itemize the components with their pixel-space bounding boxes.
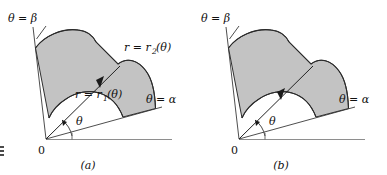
label-inner-curve-arg-a: (θ) <box>107 88 122 101</box>
page-margin-artifact <box>0 146 4 158</box>
label-origin-b: 0 <box>231 144 238 157</box>
label-inner-curve-text-a: r = r <box>75 88 102 101</box>
caption-a: (a) <box>80 159 95 172</box>
label-inner-curve-a: r = r 1 (θ) <box>75 88 122 103</box>
label-outer-curve-a: r = r 2 (θ) <box>124 41 171 56</box>
beta-leader-a <box>37 26 47 39</box>
label-theta-b: θ <box>269 115 276 128</box>
label-theta-equals-beta-a: θ = β <box>8 12 37 25</box>
shaded-region-b <box>229 30 349 118</box>
label-theta-equals-beta-b: θ = β <box>201 12 230 25</box>
label-outer-curve-arg-a: (θ) <box>156 41 171 54</box>
beta-leader-b <box>230 26 240 39</box>
figure-root: θ = β θ = α r = r 2 (θ) r = r 1 (θ) θ 0 … <box>0 0 387 175</box>
panel-a: θ = β θ = α r = r 2 (θ) r = r 1 (θ) θ 0 … <box>0 0 194 175</box>
panel-b: θ = β θ = α θ 0 (b) <box>193 0 387 175</box>
label-origin-a: 0 <box>38 144 45 157</box>
label-theta-equals-alpha-b: θ = α <box>339 93 370 106</box>
label-theta-equals-alpha-a: θ = α <box>146 93 177 106</box>
label-theta-a: θ <box>76 115 83 128</box>
label-outer-curve-text-a: r = r <box>124 41 151 54</box>
caption-b: (b) <box>273 159 289 172</box>
